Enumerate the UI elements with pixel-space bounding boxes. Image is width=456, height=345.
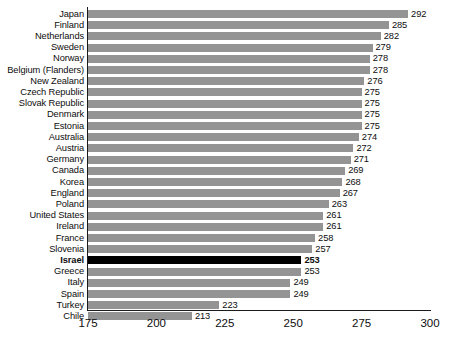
- bar-row: Sweden279: [0, 42, 456, 53]
- bar: [88, 279, 290, 287]
- bar-row: Finland285: [0, 20, 456, 31]
- category-label: United States: [0, 210, 84, 221]
- bar-row: New Zealand276: [0, 76, 456, 87]
- category-label: Ireland: [0, 221, 84, 232]
- bar: [88, 21, 389, 29]
- bar-row: Belgium (Flanders)278: [0, 65, 456, 76]
- bar-value-label: 258: [318, 233, 333, 244]
- category-label: Czech Republic: [0, 87, 84, 98]
- category-label: Slovenia: [0, 244, 84, 255]
- x-axis-tick-label: 250: [284, 314, 303, 332]
- x-axis-tick-label: 225: [215, 314, 234, 332]
- category-label: Spain: [0, 289, 84, 300]
- bar-value-label: 274: [362, 132, 377, 143]
- bar-rows-container: Japan292Finland285Netherlands282Sweden27…: [0, 0, 456, 310]
- category-label: Canada: [0, 165, 84, 176]
- x-axis-tick-label: 175: [78, 314, 97, 332]
- bar: [88, 256, 301, 264]
- bar-row: Israel253: [0, 255, 456, 266]
- bar-row: Czech Republic275: [0, 87, 456, 98]
- bar: [88, 122, 362, 130]
- bar-value-label: 292: [411, 9, 426, 20]
- bar-row: Germany271: [0, 154, 456, 165]
- bar: [88, 223, 323, 231]
- bar: [88, 234, 315, 242]
- x-axis-tick-label: 200: [147, 314, 166, 332]
- bar-value-label: 279: [376, 42, 391, 53]
- bar-value-label: 278: [373, 65, 388, 76]
- bar-value-label: 275: [365, 109, 380, 120]
- bar-row: Slovenia257: [0, 244, 456, 255]
- bar: [88, 77, 364, 85]
- bar: [88, 88, 362, 96]
- category-label: Korea: [0, 177, 84, 188]
- category-label: Austria: [0, 143, 84, 154]
- bar-value-label: 278: [373, 53, 388, 64]
- bar-value-label: 275: [365, 87, 380, 98]
- category-label: England: [0, 188, 84, 199]
- bar-value-label: 272: [356, 143, 371, 154]
- bar-row: Japan292: [0, 9, 456, 20]
- bar-row: Australia274: [0, 132, 456, 143]
- category-label: Netherlands: [0, 31, 84, 42]
- x-axis-tick-label: 275: [352, 314, 371, 332]
- bar: [88, 268, 301, 276]
- bar-row: Estonia275: [0, 121, 456, 132]
- bar: [88, 133, 359, 141]
- bar-row: England267: [0, 188, 456, 199]
- category-label: Norway: [0, 53, 84, 64]
- bar-value-label: 268: [345, 177, 360, 188]
- y-axis-line: [87, 7, 88, 311]
- category-label: Greece: [0, 266, 84, 277]
- bar-row: France258: [0, 233, 456, 244]
- bar-value-label: 269: [348, 165, 363, 176]
- bar-value-label: 263: [332, 199, 347, 210]
- bar-row: Denmark275: [0, 109, 456, 120]
- bar-row: Slovak Republic275: [0, 98, 456, 109]
- category-label: Germany: [0, 154, 84, 165]
- bar: [88, 200, 329, 208]
- bar-value-label: 253: [304, 266, 319, 277]
- bar: [88, 167, 345, 175]
- bar-value-label: 267: [343, 188, 358, 199]
- bar: [88, 189, 340, 197]
- bar-row: Netherlands282: [0, 31, 456, 42]
- category-label: France: [0, 233, 84, 244]
- x-axis-line: [87, 310, 431, 311]
- category-label: Turkey: [0, 300, 84, 311]
- bar: [88, 44, 373, 52]
- bar-row: Spain249: [0, 289, 456, 300]
- category-label: Denmark: [0, 109, 84, 120]
- bar-value-label: 276: [367, 76, 382, 87]
- bar-row: United States261: [0, 210, 456, 221]
- bar: [88, 32, 381, 40]
- category-label: Finland: [0, 20, 84, 31]
- bar-row: Norway278: [0, 53, 456, 64]
- bar-value-label: 271: [354, 154, 369, 165]
- bar-row: Austria272: [0, 143, 456, 154]
- bar-value-label: 257: [315, 244, 330, 255]
- category-label: Australia: [0, 132, 84, 143]
- bar-value-label: 285: [392, 20, 407, 31]
- bar-value-label: 249: [293, 289, 308, 300]
- category-label: Poland: [0, 199, 84, 210]
- category-label: Italy: [0, 277, 84, 288]
- x-axis-tick-label: 300: [420, 314, 439, 332]
- category-label: Israel: [0, 255, 84, 266]
- category-label: Japan: [0, 9, 84, 20]
- bar-value-label: 275: [365, 98, 380, 109]
- bar-row: Canada269: [0, 165, 456, 176]
- bar-row: Poland263: [0, 199, 456, 210]
- category-label: Sweden: [0, 42, 84, 53]
- x-axis-tick-labels: 175200225250275300: [0, 314, 456, 336]
- bar: [88, 66, 370, 74]
- bar-row: Ireland261: [0, 221, 456, 232]
- bar: [88, 144, 353, 152]
- bar: [88, 290, 290, 298]
- bar-value-label: 261: [326, 210, 341, 221]
- bar: [88, 100, 362, 108]
- bar: [88, 301, 219, 309]
- bar: [88, 55, 370, 63]
- category-label: Slovak Republic: [0, 98, 84, 109]
- bar: [88, 178, 342, 186]
